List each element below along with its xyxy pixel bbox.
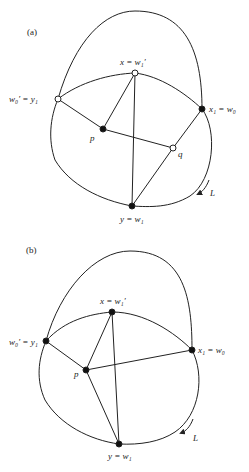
node-p [83,367,89,373]
node-q [170,145,176,151]
edge-x-y [112,312,119,444]
node-w0p [55,96,61,102]
label-y: y = w₁ [107,451,132,461]
label-x: x = w₁′ [119,57,147,67]
node-p [100,126,106,132]
edge-p-q [103,129,173,148]
label-L: L [192,433,198,443]
label-x1: x₁ = w₀ [197,345,225,355]
panel-b: (b) [26,245,199,444]
node-x1 [189,347,195,353]
diagram-canvas: (a) x = w₁′ w₀′ = y₁ x₁ = w₀ p q y = w₁ … [0,0,249,472]
edge-p-x1 [86,350,192,370]
node-w0p [43,338,49,344]
node-y [116,441,122,447]
label-q: q [178,149,183,159]
edge-x-p [103,73,135,129]
inner-curve-bottom [51,99,212,207]
label-L: L [209,188,215,198]
label-w0p: w₀′ = y₁ [9,337,38,347]
edge-q-y [132,148,173,206]
label-x: x = w₁′ [99,296,127,306]
edge-x-y [132,73,135,206]
label-y: y = w₁ [119,214,144,224]
node-x1 [199,106,205,112]
label-x1: x₁ = w₀ [208,104,236,114]
inner-curve-top [58,73,202,109]
panel-a-nodes [55,70,205,209]
panel-a: (a) [27,11,212,207]
node-y [129,203,135,209]
inner-curve-bottom [39,341,199,444]
label-w0p: w₀′ = y₁ [9,94,38,104]
edge-x1-q [173,109,202,148]
edge-p-y [86,370,119,444]
panel-b-nodes [43,309,195,447]
panel-a-labels: x = w₁′ w₀′ = y₁ x₁ = w₀ p q y = w₁ L [9,57,236,224]
edge-x-p [86,312,112,370]
node-x [132,70,138,76]
label-p: p [73,369,79,379]
inner-curve-top [46,312,192,350]
label-p: p [89,133,95,143]
node-x [109,309,115,315]
edge-w0p-p [58,99,103,129]
panel-a-label: (a) [27,27,37,37]
edge-w0p-p [46,341,86,370]
panel-b-labels: x = w₁′ w₀′ = y₁ x₁ = w₀ p y = w₁ L [9,296,225,461]
panel-b-label: (b) [26,245,37,255]
